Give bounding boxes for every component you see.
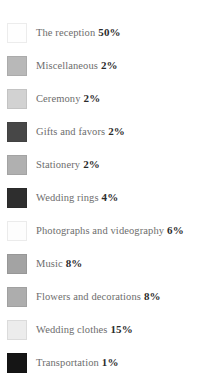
legend-item-label: The reception	[36, 27, 95, 38]
legend-color-swatch	[7, 56, 27, 76]
legend-item-text: Flowers and decorations8%	[36, 290, 205, 303]
legend-item-value: 2%	[84, 92, 101, 104]
legend-item-text: Transportation1%	[36, 356, 205, 369]
legend-item[interactable]: Ceremony2%	[0, 82, 205, 115]
legend-item-value: 1%	[102, 356, 119, 368]
legend-item[interactable]: Wedding rings4%	[0, 181, 205, 214]
legend-item-text: Wedding clothes15%	[36, 323, 205, 336]
legend-item-label: Wedding rings	[36, 192, 99, 203]
legend-item-label: Music	[36, 258, 63, 269]
legend-item-value: 15%	[111, 323, 133, 335]
legend-item-label: Flowers and decorations	[36, 291, 141, 302]
legend-item-text: Photographs and videography6%	[36, 224, 205, 237]
legend-item-value: 2%	[108, 125, 125, 137]
legend-item-text: Music8%	[36, 257, 205, 270]
legend-item[interactable]: Miscellaneous2%	[0, 49, 205, 82]
legend-list: The reception50% Miscellaneous2% Ceremon…	[0, 16, 205, 379]
legend-item[interactable]: Flowers and decorations8%	[0, 280, 205, 313]
legend-item-text: Ceremony2%	[36, 92, 205, 105]
legend-item-value: 50%	[98, 26, 120, 38]
legend-item[interactable]: Gifts and favors2%	[0, 115, 205, 148]
legend-item-value: 2%	[101, 59, 118, 71]
legend-color-swatch	[7, 254, 27, 274]
legend-item-label: Miscellaneous	[36, 60, 98, 71]
legend-item[interactable]: Wedding clothes15%	[0, 313, 205, 346]
legend-color-swatch	[7, 320, 27, 340]
legend-item-text: Gifts and favors2%	[36, 125, 205, 138]
legend-item-label: Transportation	[36, 357, 99, 368]
legend-item[interactable]: The reception50%	[0, 16, 205, 49]
legend-item[interactable]: Photographs and videography6%	[0, 214, 205, 247]
legend-item[interactable]: Transportation1%	[0, 346, 205, 379]
legend-item-value: 6%	[167, 224, 184, 236]
legend-item-label: Wedding clothes	[36, 324, 108, 335]
legend-item-value: 8%	[66, 257, 83, 269]
legend-item-text: The reception50%	[36, 26, 205, 39]
legend-item-text: Miscellaneous2%	[36, 59, 205, 72]
legend-color-swatch	[7, 89, 27, 109]
legend-color-swatch	[7, 221, 27, 241]
legend-item-text: Wedding rings4%	[36, 191, 205, 204]
legend-item-value: 8%	[144, 290, 161, 302]
legend-color-swatch	[7, 23, 27, 43]
legend-item-value: 2%	[83, 158, 100, 170]
legend-item[interactable]: Stationery2%	[0, 148, 205, 181]
legend-item-label: Stationery	[36, 159, 80, 170]
legend-item-label: Ceremony	[36, 93, 81, 104]
legend-color-swatch	[7, 122, 27, 142]
legend-item-label: Photographs and videography	[36, 225, 164, 236]
chart-legend-panel: The reception50% Miscellaneous2% Ceremon…	[0, 0, 205, 385]
legend-color-swatch	[7, 287, 27, 307]
legend-item-label: Gifts and favors	[36, 126, 105, 137]
legend-item[interactable]: Music8%	[0, 247, 205, 280]
legend-color-swatch	[7, 155, 27, 175]
legend-item-text: Stationery2%	[36, 158, 205, 171]
legend-color-swatch	[7, 353, 27, 373]
legend-item-value: 4%	[102, 191, 119, 203]
legend-color-swatch	[7, 188, 27, 208]
